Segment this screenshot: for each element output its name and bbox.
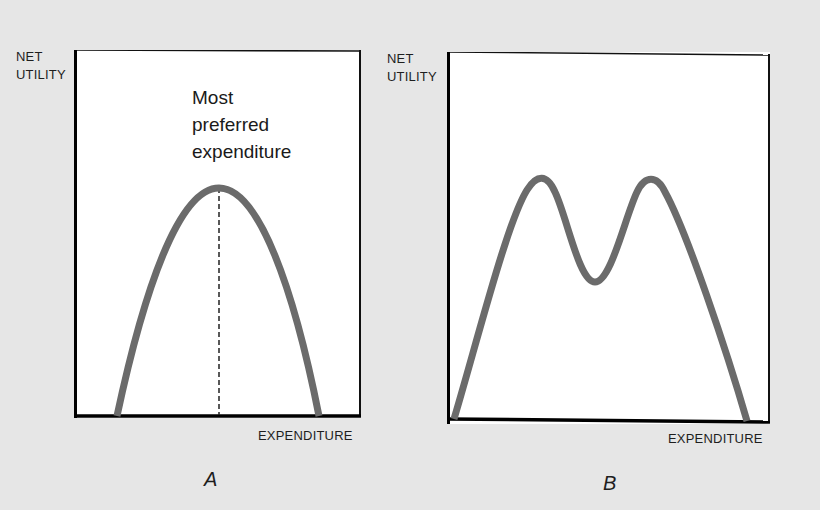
panel-b-x-axis-label: EXPENDITURE — [668, 431, 763, 446]
panel-b-utility-curve — [454, 178, 747, 421]
panel-a-utility-curve — [117, 188, 319, 416]
panel-b-x-axis — [447, 419, 770, 422]
panel-b-y-axis-label: NET UTILITY — [387, 50, 437, 86]
panel-a-frame-top — [75, 50, 360, 51]
panel-b-y-label-line1: NET — [387, 50, 437, 68]
panel-b-y-label-line2: UTILITY — [387, 68, 437, 86]
panel-b-chart-svg — [447, 52, 770, 424]
annotation-line2: preferred — [192, 111, 291, 138]
panel-a-y-label-line1: NET — [16, 48, 66, 66]
panel-b-plot-area — [447, 52, 770, 424]
annotation-line1: Most — [192, 84, 291, 111]
panel-a-y-label-line2: UTILITY — [16, 66, 66, 84]
panel-b-letter: B — [603, 472, 616, 495]
panel-a-y-axis-label: NET UTILITY — [16, 48, 66, 84]
panel-a-letter: A — [204, 468, 217, 491]
panel-a-annotation: Most preferred expenditure — [192, 84, 291, 165]
annotation-line3: expenditure — [192, 138, 291, 165]
panel-b-frame-top — [448, 52, 769, 55]
panel-a-x-axis-label: EXPENDITURE — [258, 428, 353, 443]
